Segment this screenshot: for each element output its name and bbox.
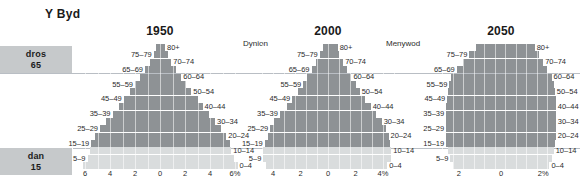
bar-men-50–54	[130, 88, 160, 95]
chart-title-2050: 2050	[442, 24, 560, 38]
age-label-10–14: 10–14	[556, 147, 577, 155]
bar-men-65–69	[145, 66, 160, 73]
bar-men-10–14	[90, 147, 160, 154]
bar-women-50–54	[501, 88, 555, 95]
pyramid-row	[85, 147, 235, 154]
bar-women-40–44	[501, 103, 556, 110]
bar-women-65–69	[501, 66, 547, 73]
x-tick-label: 0	[499, 169, 503, 178]
age-label-65–69: 65–69	[289, 66, 310, 74]
pyramid-row	[442, 155, 560, 162]
x-axis: 42024%	[262, 169, 394, 183]
pyramid-row	[442, 88, 560, 95]
bar-men-45–49	[124, 96, 160, 103]
age-label-25–29: 25–29	[77, 125, 98, 133]
pyramid-row	[442, 66, 560, 73]
bar-men-35–39	[446, 111, 501, 118]
bar-men-5–9	[263, 155, 328, 162]
age-label-55–59: 55–59	[280, 81, 301, 89]
bar-men-55–59	[303, 81, 328, 88]
bar-women-55–59	[160, 81, 186, 88]
age-label-35–39: 35–39	[257, 110, 278, 118]
age-label-60–64: 60–64	[183, 73, 204, 81]
age-label-25–29: 25–29	[423, 125, 444, 133]
chart-title-2000: 2000	[262, 24, 394, 38]
age-label-10–14: 10–14	[393, 147, 414, 155]
age-label-70–74: 70–74	[345, 58, 366, 66]
pyramid-row	[85, 125, 235, 132]
x-tick-label: 2	[298, 169, 302, 178]
bar-women-80+	[160, 44, 165, 51]
bar-women-70–74	[160, 59, 171, 66]
bar-women-10–14	[501, 147, 554, 154]
bar-women-35–39	[328, 111, 376, 118]
bar-women-15–19	[328, 140, 390, 147]
age-label-70–74: 70–74	[173, 58, 194, 66]
age-label-75–79: 75–79	[297, 51, 318, 59]
page-title: Y Byd	[45, 7, 80, 21]
pyramid-row	[85, 51, 235, 58]
bar-men-25–29	[270, 125, 328, 132]
x-tick-label: 6	[83, 169, 87, 178]
bar-men-15–19	[265, 140, 328, 147]
age-label-60–64: 60–64	[554, 73, 575, 81]
bar-women-25–29	[160, 125, 221, 132]
age-label-75–79: 75–79	[131, 51, 152, 59]
pyramid-row	[262, 44, 394, 51]
bar-men-75–79	[320, 51, 328, 58]
age-label-70–74: 70–74	[545, 58, 566, 66]
bar-women-65–69	[160, 66, 176, 73]
pyramid-row	[85, 140, 235, 147]
bar-men-5–9	[450, 155, 501, 162]
age-label-5–9: 5–9	[73, 155, 86, 163]
bar-women-75–79	[160, 51, 168, 58]
x-tick-label: 4	[208, 169, 212, 178]
bar-women-30–34	[501, 118, 556, 125]
pyramid-row	[262, 51, 394, 58]
age-label-50–54: 50–54	[557, 88, 578, 96]
bar-men-60–64	[140, 74, 160, 81]
age-label-25–29: 25–29	[247, 125, 268, 133]
bar-women-5–9	[160, 155, 234, 162]
bar-men-20–24	[95, 133, 160, 140]
bar-men-55–59	[449, 81, 501, 88]
bar-men-25–29	[446, 125, 501, 132]
bar-women-55–59	[501, 81, 554, 88]
age-label-5–9: 5–9	[436, 155, 449, 163]
pyramid-row	[442, 81, 560, 88]
side-label-under-15-line1: dan	[28, 151, 45, 161]
age-label-65–69: 65–69	[122, 66, 143, 74]
age-label-45–49: 45–49	[101, 95, 122, 103]
bar-women-20–24	[501, 133, 556, 140]
bar-men-60–64	[307, 74, 328, 81]
age-label-60–64: 60–64	[353, 73, 374, 81]
pyramid-row	[442, 125, 560, 132]
pyramid-row	[442, 74, 560, 81]
x-tick-label: 2	[457, 169, 461, 178]
age-label-15–19: 15–19	[423, 140, 444, 148]
x-tick-label: 0	[326, 169, 330, 178]
bar-women-50–54	[160, 88, 191, 95]
age-label-40–44: 40–44	[558, 103, 579, 111]
bar-women-55–59	[328, 81, 356, 88]
bar-men-70–74	[150, 59, 160, 66]
pyramid-row	[85, 66, 235, 73]
age-label-50–54: 50–54	[362, 88, 383, 96]
pyramid-row	[85, 118, 235, 125]
bar-men-40–44	[446, 103, 501, 110]
bar-women-75–79	[328, 51, 339, 58]
x-axis: 6420246%	[85, 169, 235, 183]
age-label-20–24: 20–24	[391, 132, 412, 140]
bar-women-60–64	[160, 74, 181, 81]
bar-women-20–24	[328, 133, 389, 140]
age-label-30–34: 30–34	[384, 118, 405, 126]
bar-women-80+	[328, 44, 338, 51]
bar-women-30–34	[328, 118, 382, 125]
bar-men-20–24	[268, 133, 329, 140]
bar-women-15–19	[501, 140, 555, 147]
chart-panel-1950: 195080+75–7970–7465–6960–6455–5950–5445–…	[85, 0, 235, 189]
bar-men-55–59	[135, 81, 160, 88]
bar-women-40–44	[160, 103, 203, 110]
age-label-35–39: 35–39	[423, 110, 444, 118]
pyramid-row	[442, 59, 560, 66]
